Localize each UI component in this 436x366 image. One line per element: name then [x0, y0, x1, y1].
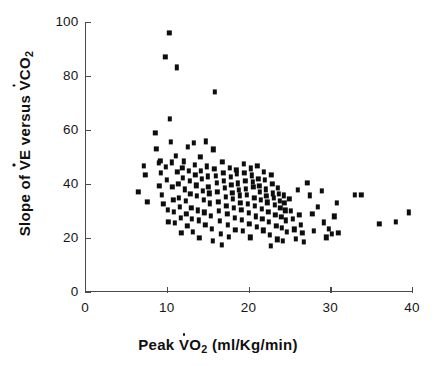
data-point [219, 242, 223, 247]
data-point [165, 207, 169, 212]
scatter-plot-figure: Slope of VE versus VCO2 Peak VO2 (ml/Kg/… [0, 0, 436, 366]
data-point [244, 186, 248, 191]
data-point [227, 234, 231, 239]
data-point [178, 216, 182, 221]
x-axis-title: Peak VO2 (ml/Kg/min) [0, 336, 436, 353]
data-point [173, 221, 177, 226]
data-point [332, 214, 336, 219]
data-point [209, 213, 213, 218]
data-point [168, 117, 172, 122]
data-point [263, 177, 267, 182]
data-point [255, 163, 259, 168]
y-axis-subscript-2: 2 [22, 51, 34, 57]
data-point [273, 212, 277, 217]
data-point [324, 235, 328, 240]
data-point [225, 212, 229, 217]
data-point [196, 208, 200, 213]
data-point [227, 165, 231, 170]
data-point [353, 192, 357, 197]
data-point [222, 179, 226, 184]
data-point [216, 199, 220, 204]
data-point [269, 172, 273, 177]
data-point [238, 200, 242, 205]
data-point [294, 236, 298, 241]
x-tick-40: 40 [412, 287, 413, 293]
data-point [250, 179, 254, 184]
y-tick-label-80: 80 [63, 68, 78, 83]
data-point [258, 189, 262, 194]
data-point [262, 169, 266, 174]
y-axis-v1: V [16, 160, 33, 170]
y-tick-label-60: 60 [63, 122, 78, 137]
data-point [189, 206, 193, 211]
data-point [214, 173, 218, 178]
data-point [335, 200, 339, 205]
data-point [302, 239, 306, 244]
y-axis-title-middle: versus [16, 90, 33, 149]
data-point [285, 229, 289, 234]
data-point [232, 205, 236, 210]
data-point [322, 220, 326, 225]
v-dot-e-symbol: V [16, 160, 33, 170]
data-point [228, 175, 232, 180]
data-point [183, 187, 187, 192]
data-point [237, 193, 241, 198]
data-point [174, 153, 178, 158]
data-point [170, 185, 174, 190]
x-axis-o: O [189, 336, 201, 353]
data-point [160, 192, 164, 197]
data-point [299, 222, 303, 227]
y-tick-80: 80 [85, 76, 91, 77]
x-axis-subscript-2: 2 [201, 343, 207, 355]
data-point [251, 185, 255, 190]
data-point [169, 140, 173, 145]
data-point [377, 221, 381, 226]
data-point [220, 159, 224, 164]
x-tick-label-30: 30 [323, 300, 338, 315]
data-point [186, 144, 190, 149]
data-point [393, 219, 397, 224]
data-point [218, 219, 222, 224]
data-point [196, 218, 200, 223]
data-point [239, 207, 243, 212]
data-point [230, 190, 234, 195]
data-point [320, 188, 324, 193]
data-point [206, 184, 210, 189]
data-point [295, 187, 299, 192]
data-point [174, 65, 178, 70]
data-point [164, 165, 168, 170]
data-point [310, 211, 314, 216]
data-point [292, 227, 296, 232]
data-point [272, 202, 276, 207]
data-point [223, 194, 227, 199]
data-point [267, 219, 271, 224]
y-axis-v2: V [16, 80, 33, 90]
data-point [158, 158, 162, 163]
data-point [154, 147, 158, 152]
data-point [211, 147, 215, 152]
data-point [157, 184, 161, 189]
data-point [175, 169, 179, 174]
data-point [221, 170, 225, 175]
v-dot-o2-symbol: V [179, 336, 189, 353]
data-point [210, 238, 214, 243]
data-point [256, 176, 260, 181]
data-point [300, 231, 304, 236]
data-point [252, 195, 256, 200]
data-point [241, 229, 245, 234]
v-dot-co2-symbol: V [16, 80, 33, 90]
data-point [233, 227, 237, 232]
data-point [281, 239, 285, 244]
data-point [136, 189, 140, 194]
data-point [224, 203, 228, 208]
data-point [190, 217, 194, 222]
data-point [163, 55, 167, 60]
data-point [308, 193, 312, 198]
data-point [284, 218, 288, 223]
data-point [265, 200, 269, 205]
x-tick-30: 30 [330, 287, 331, 293]
data-point [182, 159, 186, 164]
data-point [281, 193, 285, 198]
data-point [212, 167, 216, 172]
data-point [187, 179, 191, 184]
